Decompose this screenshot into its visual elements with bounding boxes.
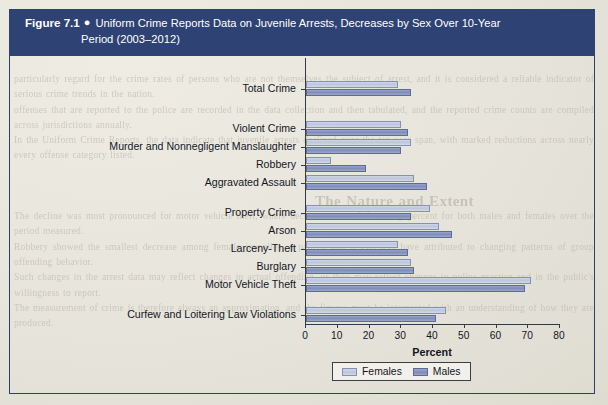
caption-text-1: Uniform Crime Reports Data on Juvenile A… xyxy=(95,17,500,29)
legend-swatch-females xyxy=(342,368,357,376)
y-axis-tick xyxy=(301,315,305,316)
category-labels-column: Total CrimeViolent CrimeMurder and Nonne… xyxy=(9,58,296,324)
bar-females xyxy=(306,121,401,128)
bar-males xyxy=(306,213,411,220)
chart-legend: Females Males xyxy=(332,362,471,381)
x-axis-tick-label: 70 xyxy=(522,330,533,341)
category-label: Motor Vehicle Theft xyxy=(205,278,296,290)
x-axis-tick-label: 30 xyxy=(395,330,406,341)
caption-line-2: Period (2003–2012) xyxy=(25,32,579,48)
x-axis-tick xyxy=(559,324,560,328)
y-axis-tick xyxy=(301,285,305,286)
x-axis-tick-label: 50 xyxy=(458,330,469,341)
category-label: Violent Crime xyxy=(233,122,296,134)
x-axis-tick xyxy=(337,324,338,328)
legend-label-females: Females xyxy=(362,366,402,377)
legend-item-males: Males xyxy=(413,366,461,377)
y-axis-tick xyxy=(301,165,305,166)
caption-bullet-icon: ● xyxy=(84,16,91,28)
y-axis-tick xyxy=(301,249,305,250)
bar-females xyxy=(306,223,439,230)
bar-females xyxy=(306,205,430,212)
bar-males xyxy=(306,315,436,322)
bar-females xyxy=(306,139,411,146)
category-label: Murder and Nonnegligent Manslaughter xyxy=(109,140,296,152)
category-label: Aggravated Assault xyxy=(205,176,296,188)
x-axis-tick-label: 60 xyxy=(490,330,501,341)
bar-males xyxy=(306,231,452,238)
x-axis-tick xyxy=(464,324,465,328)
x-axis-tick xyxy=(400,324,401,328)
legend-label-males: Males xyxy=(433,366,461,377)
x-axis-tick xyxy=(369,324,370,328)
x-axis-tick-label: 80 xyxy=(553,330,564,341)
y-axis-tick xyxy=(301,183,305,184)
bar-males xyxy=(306,285,525,292)
bar-females xyxy=(306,157,331,164)
y-axis-tick xyxy=(301,231,305,232)
category-label: Property Crime xyxy=(225,206,296,218)
x-axis-tick xyxy=(496,324,497,328)
bar-females xyxy=(306,259,411,266)
y-axis-tick xyxy=(301,89,305,90)
x-axis-tick-label: 40 xyxy=(426,330,437,341)
bar-males xyxy=(306,147,401,154)
y-axis-tick xyxy=(301,129,305,130)
x-axis-tick-label: 10 xyxy=(331,330,342,341)
y-axis-tick xyxy=(301,213,305,214)
x-axis-tick xyxy=(432,324,433,328)
figure-caption-banner: Figure 7.1●Uniform Crime Reports Data on… xyxy=(9,9,595,56)
chart-axes-area: Percent 01020304050607080 xyxy=(305,58,559,324)
bar-females xyxy=(306,175,414,182)
category-label: Robbery xyxy=(256,158,296,170)
y-axis-tick xyxy=(301,267,305,268)
legend-swatch-males xyxy=(413,368,428,376)
category-label: Burglary xyxy=(257,260,296,272)
bar-females xyxy=(306,307,446,314)
bar-males xyxy=(306,165,366,172)
category-label: Curfew and Loitering Law Violations xyxy=(127,308,296,320)
x-axis-tick-label: 20 xyxy=(363,330,374,341)
figure-number: Figure 7.1 xyxy=(25,16,80,29)
category-label: Arson xyxy=(268,224,296,236)
legend-item-females: Females xyxy=(342,366,402,377)
bar-males xyxy=(306,249,408,256)
x-axis-title: Percent xyxy=(305,346,559,358)
bar-females xyxy=(306,81,398,88)
category-label: Total Crime xyxy=(242,82,296,94)
chart-plot-area: Total CrimeViolent CrimeMurder and Nonne… xyxy=(9,58,595,394)
x-axis-tick-label: 0 xyxy=(302,330,308,341)
y-axis-tick xyxy=(301,147,305,148)
x-axis-tick xyxy=(305,324,306,328)
bar-males xyxy=(306,183,427,190)
bar-females xyxy=(306,241,398,248)
bar-males xyxy=(306,89,411,96)
caption-line-1: Figure 7.1●Uniform Crime Reports Data on… xyxy=(25,15,579,32)
category-label: Larceny-Theft xyxy=(231,242,296,254)
bar-females xyxy=(306,277,531,284)
bar-males xyxy=(306,267,414,274)
x-axis-tick xyxy=(527,324,528,328)
bar-males xyxy=(306,129,408,136)
